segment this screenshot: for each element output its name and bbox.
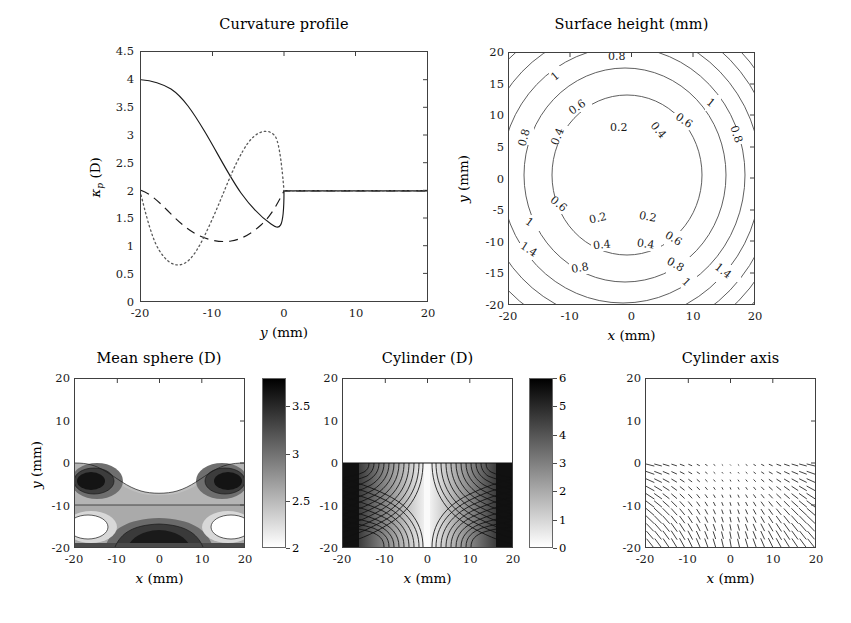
quiver-arrow	[671, 509, 676, 515]
quiver-arrow	[792, 494, 798, 499]
quiver-arrow	[688, 517, 692, 523]
quiver-arrow	[646, 501, 654, 507]
quiver-arrow	[800, 531, 806, 539]
surface-ytick--15: -15	[472, 266, 504, 280]
quiver-arrow	[738, 510, 739, 514]
quiver-arrow	[799, 508, 806, 515]
curvature-xtick-20: 20	[421, 306, 436, 320]
quiver-arrow	[753, 524, 756, 530]
quiver-arrow	[792, 472, 798, 474]
curvature-title: Curvature profile	[140, 16, 428, 32]
quiver-arrow	[672, 501, 677, 506]
quiver-arrow	[697, 517, 700, 523]
quiver-arrow	[738, 532, 740, 539]
quiver-arrow	[762, 464, 764, 465]
cylinder-cbar-mark-1	[553, 520, 557, 521]
quiver-arrow	[784, 539, 789, 547]
quiver-arrow	[730, 480, 731, 481]
quiver-arrow	[680, 487, 684, 490]
curvature-ytick-05: 0.5	[104, 267, 134, 281]
meansphere-cbar-mark-25	[286, 501, 290, 502]
meansphere-colorbar[interactable]	[262, 378, 286, 548]
quiver-arrow	[761, 524, 764, 531]
surface-ytick--5: -5	[472, 203, 504, 217]
meansphere-xtick-0: 0	[156, 552, 163, 566]
curvature-ytick-25: 2.5	[104, 156, 134, 170]
quiver-arrow	[800, 479, 807, 482]
quiver-arrow	[800, 472, 807, 475]
cylinder-axis-quiver-svg	[646, 379, 815, 547]
quiver-arrow	[769, 531, 773, 539]
quiver-arrow	[722, 510, 723, 514]
quiver-arrow	[761, 487, 764, 490]
cylinder-colorbar[interactable]	[529, 378, 553, 548]
quiver-arrow	[697, 509, 700, 514]
quiver-arrow	[746, 510, 748, 514]
cylaxis-ytick--10: -10	[613, 499, 641, 513]
quiver-arrow	[784, 494, 789, 498]
cylaxis-xtick--10: -10	[678, 552, 697, 566]
quiver-arrow	[646, 479, 654, 483]
svg-text:0.8: 0.8	[608, 53, 626, 63]
svg-text:0.2: 0.2	[610, 121, 628, 134]
cylinder-cbar-mark-5	[553, 406, 557, 407]
quiver-arrow	[663, 494, 669, 499]
quiver-arrow	[792, 464, 798, 466]
quiver-arrow	[754, 487, 756, 489]
quiver-arrow	[769, 494, 772, 498]
quiver-arrow	[800, 464, 807, 466]
cylinder-cbar-mark-3	[553, 463, 557, 464]
curvature-xtick-10: 10	[349, 306, 364, 320]
quiver-arrow	[646, 509, 654, 516]
quiver-arrow	[753, 517, 756, 522]
quiver-arrow	[807, 509, 815, 516]
quiver-arrow	[654, 501, 661, 507]
quiver-arrow	[746, 487, 747, 489]
quiver-arrow	[671, 523, 677, 531]
surface-xtick-20: 20	[748, 309, 763, 323]
quiver-arrow	[688, 531, 692, 539]
quiver-arrow	[762, 480, 764, 482]
curvature-axes	[140, 51, 428, 302]
quiver-arrow	[762, 472, 764, 474]
cylaxis-ytick-0: 0	[613, 456, 641, 470]
quiver-arrow	[655, 472, 662, 475]
quiver-arrow	[689, 494, 692, 498]
curvature-ylabel: κp (D)	[87, 117, 106, 237]
quiver-arrow	[722, 525, 724, 531]
meansphere-contourf-svg	[75, 379, 244, 547]
surface-ytick-15: 15	[472, 77, 504, 91]
quiver-arrow	[776, 531, 781, 540]
cylinder-contourf-svg	[343, 379, 512, 547]
surface-ytick-10: 10	[472, 108, 504, 122]
quiver-arrow	[697, 495, 700, 498]
cylinder-colorbar-gradient	[530, 379, 552, 547]
quiver-arrow	[722, 539, 724, 547]
quiver-arrow	[705, 495, 707, 498]
quiver-arrow	[777, 502, 781, 507]
quiver-arrow	[714, 465, 715, 466]
quiver-arrow	[761, 509, 764, 514]
quiver-arrow	[792, 523, 798, 531]
quiver-arrow	[705, 510, 707, 514]
quiver-arrow	[714, 502, 716, 505]
curve-solid	[141, 80, 427, 227]
quiver-arrow	[671, 531, 677, 539]
meansphere-ytick--10: -10	[40, 499, 70, 513]
quiver-arrow	[746, 495, 748, 498]
cylinder-xtick-10: 10	[463, 552, 478, 566]
meansphere-ytick-10: 10	[40, 414, 70, 428]
quiver-arrow	[777, 479, 781, 482]
quiver-arrow	[754, 502, 756, 506]
cylinder-ytick--10: -10	[310, 499, 338, 513]
quiver-arrow	[807, 494, 815, 499]
quiver-arrow	[730, 532, 731, 538]
quiver-arrow	[697, 487, 700, 490]
quiver-arrow	[647, 539, 653, 547]
quiver-arrow	[646, 471, 654, 474]
quiver-arrow	[776, 516, 781, 523]
quiver-arrow	[722, 465, 723, 466]
quiver-arrow	[777, 509, 782, 515]
surface-axes: 0.8 1 0.6 0.4 0.8 0.2	[508, 52, 755, 305]
quiver-arrow	[688, 524, 692, 531]
